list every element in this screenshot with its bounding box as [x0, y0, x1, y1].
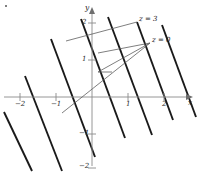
contour-line: [108, 17, 152, 135]
x-axis-label: x: [188, 99, 192, 107]
y-tick-label-2: 2: [82, 19, 86, 26]
x-tick-label--1: −1: [51, 101, 61, 108]
annotation-z-equals-0: z = 0: [152, 37, 170, 44]
contour-line: [25, 76, 62, 171]
x-tick-label-1: 1: [126, 101, 130, 108]
leader-line-z3: [66, 22, 137, 41]
contour-line: [81, 19, 125, 138]
y-axis-arrow-icon: [89, 7, 95, 14]
y-tick-label--1: −1: [79, 130, 89, 137]
leader-line-z0: [98, 43, 150, 72]
contour-line: [4, 112, 32, 171]
y-axis-label: y: [85, 4, 89, 12]
leader-line-z0: [62, 43, 150, 113]
contour-plot-figure: x y −2 −1 1 2 2 1 −1 −2 z = 3 z = 0: [0, 0, 197, 172]
x-tick-label-2: 2: [162, 101, 166, 108]
contour-line: [51, 39, 95, 157]
annotation-z-equals-3: z = 3: [139, 16, 157, 23]
x-tick-label--2: −2: [15, 101, 25, 108]
y-tick-label-1: 1: [82, 56, 86, 63]
leader-lines: [62, 22, 150, 113]
leader-line-z0: [98, 43, 150, 53]
plot-canvas: [0, 0, 197, 172]
y-tick-label--2: −2: [79, 163, 89, 170]
